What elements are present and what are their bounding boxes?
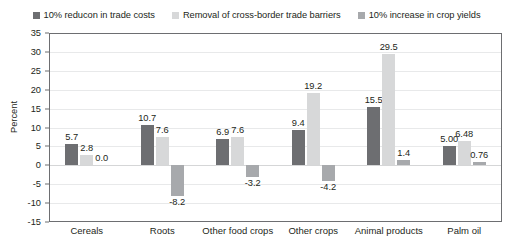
x-axis-tick-label: Animal products (355, 225, 423, 236)
bar-value-label: -4.2 (311, 182, 345, 192)
bar-value-label: 19.2 (296, 81, 330, 91)
x-axis-tick-label: Roots (150, 225, 175, 236)
bar (473, 162, 486, 165)
bar (171, 165, 184, 196)
bar-value-label: 0.76 (462, 150, 496, 160)
bar-value-label: 2.8 (70, 143, 104, 153)
y-axis-tick-label: 0 (36, 160, 41, 170)
legend-item-trade-costs: 10% reducon in trade costs (33, 10, 155, 20)
y-axis-tick-label: 20 (31, 85, 41, 95)
y-axis-tick-label: 10 (31, 123, 41, 133)
bar-value-label: 1.4 (387, 148, 421, 158)
bar-value-label: -8.2 (160, 197, 194, 207)
bar (322, 165, 335, 181)
bar-group: 15.529.51.4 (351, 33, 427, 222)
y-axis-tick-label: 35 (31, 28, 41, 38)
y-axis-tick-label: 15 (31, 104, 41, 114)
bar (292, 130, 305, 166)
bar-chart: 10% reducon in trade costs Removal of cr… (0, 0, 513, 252)
legend-item-crop-yields: 10% increase in crop yields (358, 10, 481, 20)
x-axis-tick-label: Other crops (288, 225, 338, 236)
bar (443, 146, 456, 165)
bar (156, 137, 169, 166)
x-axis-tick-label: Palm oil (447, 225, 481, 236)
legend-item-trade-barriers: Removal of cross-border trade barriers (172, 10, 341, 20)
legend-swatch-trade-barriers (172, 12, 179, 19)
x-axis-tick-label: Cereals (70, 225, 103, 236)
bar-value-label: 5.7 (55, 132, 89, 142)
y-axis-tick-label: -5 (33, 179, 41, 189)
bar (397, 160, 410, 165)
bar (216, 139, 229, 165)
bar-value-label: 7.6 (221, 125, 255, 135)
legend-swatch-crop-yields (358, 12, 365, 19)
bar-group: 6.97.6-3.2 (200, 33, 276, 222)
bar-value-label: 29.5 (372, 42, 406, 52)
x-axis: CerealsRootsOther food cropsOther cropsA… (49, 225, 502, 245)
y-axis-tick-label: 30 (31, 47, 41, 57)
bar-group: 10.77.6-8.2 (125, 33, 201, 222)
legend-swatch-trade-costs (33, 12, 40, 19)
bar-group: 5.72.80.0 (49, 33, 125, 222)
chart-legend: 10% reducon in trade costs Removal of cr… (0, 6, 513, 24)
y-axis-tick-label: 25 (31, 66, 41, 76)
y-axis-tick-label: -10 (28, 198, 41, 208)
bar-value-label: 10.7 (130, 113, 164, 123)
y-axis: 35302520151050-5-10-15 (0, 33, 49, 222)
bar-groups: 5.72.80.010.77.6-8.26.97.6-3.29.419.2-4.… (49, 33, 502, 222)
bar-value-label: 7.6 (145, 125, 179, 135)
bar (231, 137, 244, 166)
bar (246, 165, 259, 177)
legend-label-trade-costs: 10% reducon in trade costs (44, 10, 155, 20)
bar (367, 107, 380, 166)
bar-value-label: -3.2 (236, 178, 270, 188)
y-axis-tick-label: -15 (28, 217, 41, 227)
legend-label-crop-yields: 10% increase in crop yields (369, 10, 481, 20)
bar (307, 93, 320, 166)
x-axis-tick-label: Other food crops (202, 225, 273, 236)
legend-label-trade-barriers: Removal of cross-border trade barriers (183, 10, 341, 20)
bar-value-label: 0.0 (85, 153, 119, 163)
bar-value-label: 6.48 (447, 129, 481, 139)
y-axis-tick-label: 5 (36, 141, 41, 151)
bar-group: 9.419.2-4.2 (276, 33, 352, 222)
bar-group: 5.006.480.76 (427, 33, 503, 222)
